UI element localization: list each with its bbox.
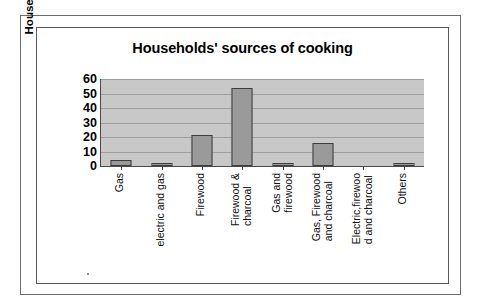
bar[interactable] [191, 135, 212, 166]
screenshot-page: Households' sources of cooking Household… [0, 0, 482, 306]
bar-slot [384, 79, 424, 166]
y-tick-label: 0 [90, 160, 97, 173]
x-tick-mark [202, 166, 203, 170]
x-tick-mark [323, 166, 324, 170]
x-axis-label-line: firewood [282, 173, 294, 213]
y-tick-label: 10 [83, 145, 97, 158]
x-axis-label: electric and gas [155, 173, 167, 247]
x-axis-label-line: Gas, Firewood [311, 173, 323, 241]
x-tick-mark [162, 166, 163, 170]
x-axis-label: Firewood &charcoal [230, 173, 253, 226]
y-tick-label: 40 [83, 102, 97, 115]
x-axis-label-line: Others [397, 173, 409, 205]
x-axis-label-line: charcoal [241, 173, 253, 226]
bar-chart: Households' sources of cooking Household… [37, 28, 448, 283]
y-axis-title: Households (%) [23, 0, 35, 46]
x-axis-label-line: electric and gas [155, 173, 167, 247]
x-label-slot: Firewood &charcoal [221, 171, 261, 281]
y-tick-label: 30 [83, 116, 97, 129]
bar-slot [263, 79, 303, 166]
x-axis-label: Others [397, 173, 409, 205]
x-axis-label: Gas [114, 173, 126, 192]
x-axis-label: Firewood [195, 173, 207, 216]
x-tick-mark [404, 166, 405, 170]
bar[interactable] [313, 143, 334, 166]
x-axis-label-line: Gas [114, 173, 126, 192]
chart-title: Households' sources of cooking [37, 40, 448, 56]
bar-slot [343, 79, 383, 166]
x-label-slot: Gas [100, 171, 140, 281]
x-tick-mark [121, 166, 122, 170]
bar-slot [303, 79, 343, 166]
bars-layer [101, 79, 424, 166]
bar[interactable] [232, 88, 253, 166]
bar-slot [101, 79, 141, 166]
x-axis-category-labels: Gaselectric and gasFirewoodFirewood &cha… [100, 171, 423, 281]
bar-slot [222, 79, 262, 166]
figure-outer-border: Households' sources of cooking Household… [20, 15, 461, 295]
y-tick-label: 50 [83, 87, 97, 100]
x-axis-label-line: and charcoal [322, 173, 334, 241]
x-label-slot: Gas, Firewoodand charcoal [302, 171, 342, 281]
figure-inner-border: Households' sources of cooking Household… [36, 27, 449, 284]
x-label-slot: Firewood [181, 171, 221, 281]
x-axis-label: Electric,firewood and charcoal [351, 173, 374, 244]
y-tick-label: 20 [83, 131, 97, 144]
x-axis-label: Gas andfirewood [270, 173, 293, 213]
x-label-slot: electric and gas [140, 171, 180, 281]
plot-area [100, 79, 424, 167]
x-axis-label-line: Gas and [270, 173, 282, 213]
x-label-slot: Others [383, 171, 423, 281]
bar-slot [182, 79, 222, 166]
x-tick-mark [363, 166, 364, 170]
y-tick-label: 60 [83, 73, 97, 86]
x-tick-mark [242, 166, 243, 170]
x-axis-label-line: d and charcoal [362, 173, 374, 244]
x-axis-label: Gas, Firewoodand charcoal [311, 173, 334, 241]
y-axis-tick-labels: 6050403020100 [59, 72, 97, 173]
x-label-slot: Gas andfirewood [262, 171, 302, 281]
x-tick-mark [283, 166, 284, 170]
scan-artifact-speck [87, 273, 89, 275]
x-label-slot: Electric,firewood and charcoal [342, 171, 382, 281]
x-axis-label-line: Firewood [195, 173, 207, 216]
bar-slot [141, 79, 181, 166]
